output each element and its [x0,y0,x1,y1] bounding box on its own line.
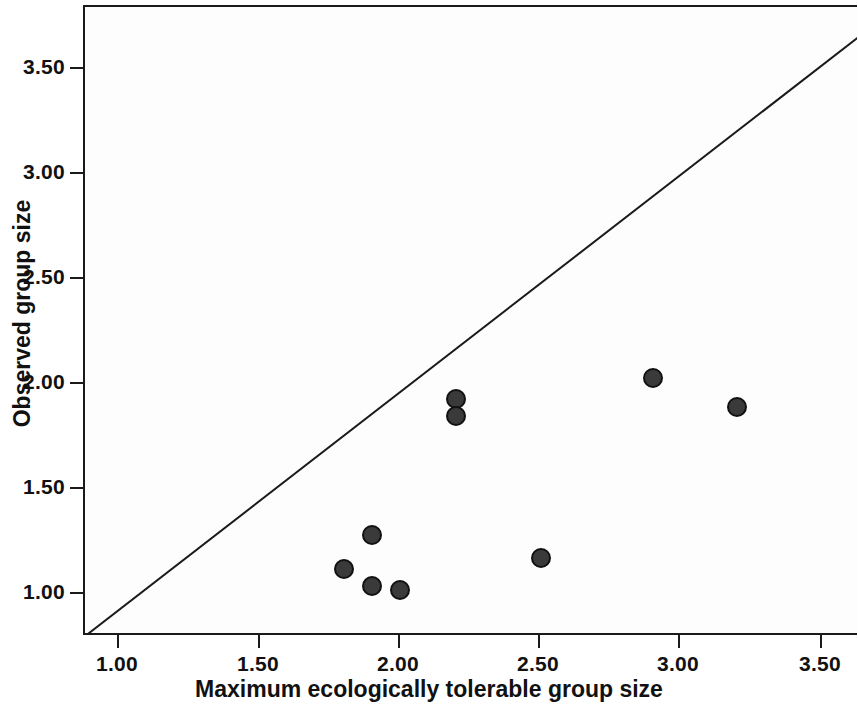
plot-canvas [85,7,857,635]
y-tick-label-3.50: 3.50 [0,55,65,79]
y-tick-label-1.00: 1.00 [0,580,65,604]
x-tick-label-3.00: 3.00 [633,652,723,676]
data-point [531,548,551,568]
plot-area [83,5,857,635]
data-point [362,576,382,596]
y-tick-3.50 [70,67,83,69]
x-axis-title: Maximum ecologically tolerable group siz… [0,676,858,703]
y-axis-title: Observed group size [9,134,36,494]
data-point [362,525,382,545]
x-tick-label-2.00: 2.00 [353,652,443,676]
y-tick-label-3.00: 3.00 [0,160,65,184]
x-tick-1.50 [258,635,260,648]
y-tick-label-1.50: 1.50 [0,475,65,499]
x-tick-3.50 [820,635,822,648]
x-tick-3.00 [678,635,680,648]
x-tick-2.00 [398,635,400,648]
data-point [390,580,410,600]
y-tick-3.00 [70,172,83,174]
x-tick-label-2.50: 2.50 [493,652,583,676]
data-point [334,559,354,579]
x-tick-label-1.50: 1.50 [213,652,303,676]
identity-reference-line [85,38,857,636]
x-tick-label-1.00: 1.00 [72,652,162,676]
y-tick-label-2.50: 2.50 [0,265,65,289]
y-tick-label-2.00: 2.00 [0,370,65,394]
data-point [446,406,466,426]
y-tick-1.50 [70,487,83,489]
scatter-plot-figure: Observed group size 3.50 3.00 2.50 2.00 … [0,0,858,710]
y-tick-1.00 [70,592,83,594]
y-tick-2.50 [70,277,83,279]
x-tick-2.50 [538,635,540,648]
x-tick-1.00 [117,635,119,648]
y-tick-2.00 [70,382,83,384]
data-point [643,368,663,388]
x-tick-label-3.50: 3.50 [775,652,858,676]
